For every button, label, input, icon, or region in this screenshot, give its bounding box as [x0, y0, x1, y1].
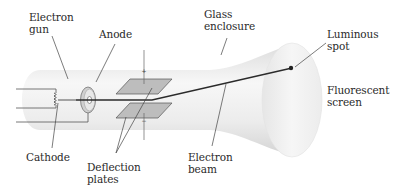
fluorescent-screen-shape — [262, 43, 322, 157]
label-anode: Anode — [99, 28, 132, 40]
label-luminous-spot: Luminous spot — [327, 28, 379, 52]
crt-diagram: + − Electron gun — [0, 0, 399, 192]
minus-sign: − — [142, 117, 147, 124]
label-deflection-plates: Deflection plates — [87, 161, 141, 185]
luminous-spot-dot — [289, 66, 293, 70]
label-electron-gun: Electron gun — [29, 11, 74, 35]
label-fluorescent-screen: Fluorescent screen — [327, 84, 389, 108]
plus-sign: + — [142, 67, 147, 74]
label-glass-enclosure: Glass enclosure — [204, 8, 255, 32]
label-cathode: Cathode — [26, 151, 70, 163]
label-electron-beam: Electron beam — [188, 151, 233, 175]
